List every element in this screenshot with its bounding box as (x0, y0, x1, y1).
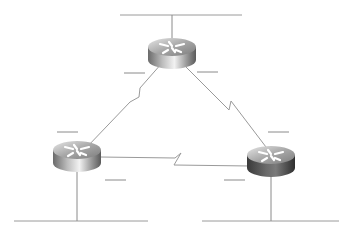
router-left-icon (53, 141, 101, 172)
router-right-icon (247, 146, 295, 177)
network-diagram (0, 0, 351, 232)
serial-link-top-right (182, 63, 266, 147)
lan-right (202, 173, 339, 221)
lan-left (14, 168, 148, 221)
router-top-icon (148, 38, 196, 69)
serial-link-top-left (86, 63, 162, 148)
serial-link-left-right (100, 153, 250, 166)
lan-top (120, 15, 242, 40)
